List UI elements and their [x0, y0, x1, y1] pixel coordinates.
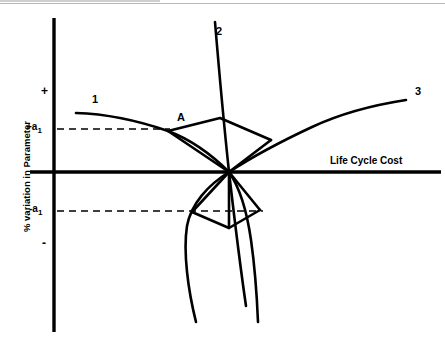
tick-label-plus-a1-subscript: 1: [37, 126, 41, 135]
tick-label-plus-a1: +a1: [26, 122, 42, 132]
curve-3-label: 3: [415, 86, 421, 97]
curve-1-path: [76, 113, 258, 322]
y-axis-positive-sign: +: [41, 85, 48, 97]
spoke-upper-right: [229, 140, 271, 172]
tick-label-minus-a1-subscript: 1: [38, 208, 42, 217]
curve-1-label: 1: [92, 94, 98, 105]
spoke-upper-left: [168, 131, 229, 172]
y-axis-negative-sign: -: [42, 237, 46, 249]
x-axis-title: Life Cycle Cost: [330, 156, 402, 166]
spider-diagram-canvas: [0, 0, 445, 347]
figure-root: % variation in Parameter Life Cycle Cost…: [0, 0, 445, 347]
y-axis-title: % variation in Parameter: [22, 121, 32, 232]
tick-label-minus-a1-text: -a: [29, 203, 38, 214]
centre-intersection-node: [226, 169, 231, 174]
vertex-A-label: A: [177, 112, 185, 123]
spoke-lower-left: [192, 172, 229, 212]
tick-label-minus-a1: -a1: [29, 204, 42, 214]
tick-label-plus-a1-text: +a: [26, 121, 37, 132]
curve-2-label: 2: [216, 26, 222, 37]
